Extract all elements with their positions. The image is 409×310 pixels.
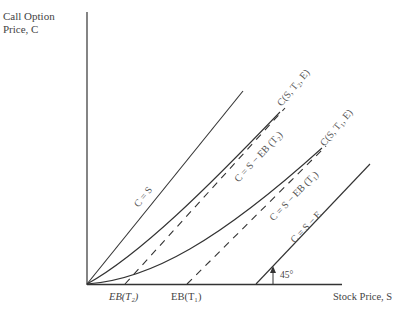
y-axis-label: Call Option Price, C xyxy=(3,10,55,36)
angle-label: 45° xyxy=(280,270,293,280)
tick-label-eb-t2: EB(T₂) xyxy=(109,291,138,302)
tick-label-eb-t1: EB(T₁) xyxy=(171,291,202,302)
x-axis-label: Stock Price, S xyxy=(333,291,392,302)
angle-arrow-head-icon xyxy=(270,266,276,273)
y-axis-label-line1: Call Option xyxy=(3,10,55,23)
curve-call-t2 xyxy=(87,112,280,284)
y-axis-label-line2: Price, C xyxy=(3,23,55,36)
option-bounds-diagram xyxy=(0,0,409,310)
line-lower-bound-t1 xyxy=(187,146,326,284)
line-c-equals-s xyxy=(87,91,243,284)
curve-call-t1 xyxy=(87,148,322,284)
